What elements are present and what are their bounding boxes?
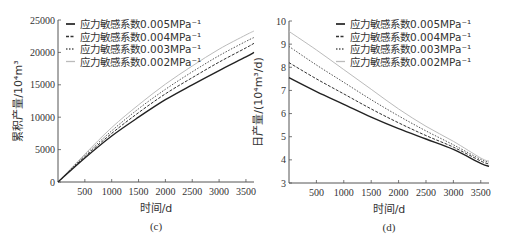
- legend-label: 应力敏感系数0.003MPa⁻¹: [80, 43, 201, 55]
- x-tick-label: 500: [309, 187, 324, 198]
- legend-label: 应力敏感系数0.003MPa⁻¹: [350, 43, 471, 55]
- x-tick-label: 1500: [129, 186, 149, 197]
- y-tick-label: 9: [281, 39, 286, 50]
- y-tick-label: 8: [281, 62, 286, 73]
- y-tick-label: 10: [276, 16, 286, 27]
- x-tick-label: 2000: [389, 187, 409, 198]
- chart-daily-production: 345678910500100015002000250030003500时间/d…: [251, 16, 491, 235]
- x-tick-label: 2000: [155, 186, 175, 197]
- y-axis-label: 累积产量/10⁴m³: [11, 60, 25, 141]
- figure-caption: (c): [150, 220, 163, 233]
- figure-caption: (d): [383, 221, 396, 234]
- y-tick-label: 6: [281, 108, 286, 119]
- legend-label: 应力敏感系数0.005MPa⁻¹: [80, 18, 201, 30]
- y-tick-label: 15000: [30, 79, 55, 90]
- x-tick-label: 500: [77, 186, 92, 197]
- x-tick-label: 3000: [443, 187, 463, 198]
- y-tick-label: 5000: [35, 144, 55, 155]
- legend-label: 应力敏感系数0.004MPa⁻¹: [80, 31, 201, 43]
- x-tick-label: 3500: [471, 187, 491, 198]
- x-tick-label: 1500: [361, 187, 381, 198]
- y-tick-label: 4: [281, 154, 286, 165]
- y-tick-label: 10000: [30, 112, 55, 123]
- figure: 0500010000150002000025000500100015002000…: [0, 0, 505, 237]
- series-line-dashed: [289, 63, 489, 164]
- legend-label: 应力敏感系数0.005MPa⁻¹: [350, 18, 471, 30]
- x-axis-label: 时间/d: [373, 203, 406, 216]
- y-tick-label: 7: [281, 85, 286, 96]
- legend-label: 应力敏感系数0.002MPa⁻¹: [350, 56, 471, 68]
- chart-cumulative-production: 0500010000150002000025000500100015002000…: [11, 15, 256, 234]
- y-tick-label: 5: [281, 131, 286, 142]
- x-tick-label: 3000: [209, 186, 229, 197]
- legend-label: 应力敏感系数0.002MPa⁻¹: [80, 56, 201, 68]
- x-axis-label: 时间/d: [140, 202, 173, 215]
- y-tick-label: 3: [281, 178, 286, 189]
- series-line-solid-dark: [289, 78, 489, 167]
- y-tick-label: 20000: [30, 47, 55, 58]
- x-tick-label: 2500: [182, 186, 202, 197]
- y-tick-label: 25000: [30, 15, 55, 26]
- x-tick-label: 1000: [334, 187, 354, 198]
- y-axis-label: 日产量/(10⁴m³/d): [251, 57, 265, 147]
- legend-label: 应力敏感系数0.004MPa⁻¹: [350, 31, 471, 43]
- y-tick-label: 0: [50, 177, 55, 188]
- series-line-solid-dark: [58, 52, 254, 182]
- x-tick-label: 1000: [102, 186, 122, 197]
- x-tick-label: 2500: [416, 187, 436, 198]
- x-tick-label: 3500: [236, 186, 256, 197]
